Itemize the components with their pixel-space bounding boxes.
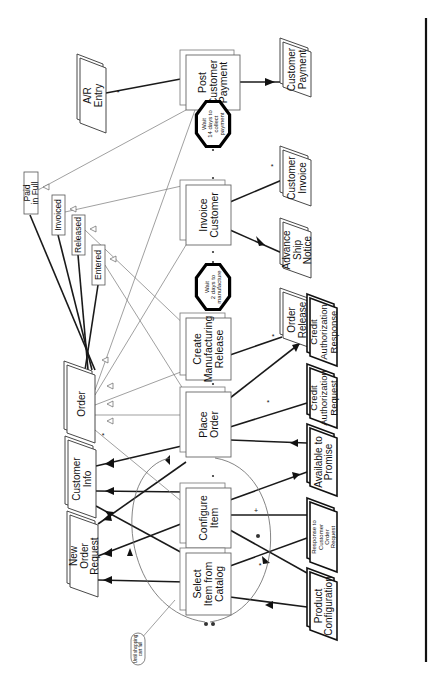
arrowhead-credit-auth-response (292, 343, 300, 352)
state-triangle-icon (107, 383, 113, 389)
document-customer-payment[interactable]: CustomerPayment (280, 38, 311, 97)
process-label-line: Customer (208, 192, 220, 238)
loop-start-dot (204, 622, 208, 626)
document-customer-info[interactable]: CustomerInfo (65, 436, 96, 518)
sequence-dot (212, 475, 214, 477)
order-state-label-line: Entered (93, 250, 103, 280)
wait-label-line: manufacture (216, 270, 222, 304)
state-triangle-icon (43, 184, 49, 190)
many-marker: * (272, 333, 275, 340)
document-customer-invoice[interactable]: CustomerInvoice (280, 146, 311, 206)
state-triangle-icon (70, 206, 76, 212)
arrowhead-available-to-promise (290, 439, 298, 447)
state-triangle-icon (90, 226, 96, 232)
order-state-label-line: in Full (30, 182, 40, 205)
order-state-label: Invoiced (53, 199, 63, 231)
document-credit-authorization-response[interactable]: CreditAuthorizationResponse (307, 294, 339, 366)
process-place-order[interactable]: PlaceOrder (180, 387, 231, 457)
arrowhead-advance-ship-notice (256, 236, 265, 246)
document-ar-entry[interactable]: A/REntry (77, 54, 106, 133)
arrowhead-loop (127, 548, 133, 556)
document-label-line: Invoice (297, 162, 308, 194)
document-label-line: Notice (302, 235, 313, 264)
process-invoice-customer[interactable]: InvoiceCustomer (180, 180, 231, 245)
order-state-paid-in-full[interactable]: Paidin Full (22, 172, 49, 214)
process-select-item-from-catalog[interactable]: SelectItem fromCatalog (180, 548, 231, 615)
document-label-line: Promise (323, 443, 334, 480)
state-triangle-icon (107, 418, 113, 424)
connector-customer-invoice (230, 180, 282, 202)
order-state-label-line: Invoiced (53, 199, 63, 231)
sequence-dot (212, 149, 214, 151)
document-credit-authorization-request[interactable]: CreditAuthorizationRequest (307, 364, 339, 428)
document-label-line: Request (330, 525, 336, 548)
arrowhead-loop-top (165, 455, 170, 465)
sequence-dot (212, 261, 214, 263)
wait-label-line: 2 days to (210, 274, 216, 299)
loop-dot (256, 534, 260, 538)
many-marker: * (259, 562, 262, 569)
document-label-line: Entry (93, 84, 104, 107)
arrowhead-neworder-3 (103, 576, 112, 584)
state-line-invoiced (65, 185, 186, 212)
wait-label-line: Wait (204, 281, 210, 293)
process-diagram: PostCustomerPaymentInvoiceCustomerCreate… (0, 0, 434, 675)
process-create-manufacturing-release[interactable]: CreateManufacturingRelease (180, 313, 231, 382)
many-marker: * (117, 89, 120, 96)
wait-wait-manufacture: Wait2 days tomanufacture (196, 265, 229, 310)
process-label-line: Order (208, 411, 220, 438)
state-line-entered (105, 265, 190, 400)
wait-label-line: Wait (201, 118, 207, 130)
order-state-entered[interactable]: Entered (92, 245, 116, 285)
process-label-line: Catalog (213, 566, 225, 602)
one-marker: + (254, 507, 258, 514)
connector-released (78, 255, 88, 370)
wait-wait-collect: Wait14 days tocollectpayment (196, 102, 229, 147)
sequence-dot (212, 177, 214, 179)
process-label-line: Payment (217, 62, 229, 104)
process-configure-item[interactable]: ConfigureItem (180, 483, 231, 548)
document-label: CustomerInvoice (286, 156, 307, 200)
document-label-line: Payment (297, 50, 308, 90)
order-state-label: Released (73, 217, 83, 253)
wait-label-line: payment (219, 112, 225, 135)
sequence-dot (212, 251, 214, 253)
document-label-line: Response (328, 311, 339, 354)
document-label-line: Response to (311, 520, 317, 554)
loop-callout: Until shoppingcart full (131, 633, 145, 665)
document-label-line: Request (89, 537, 100, 574)
wait-label-line: 14 days to (207, 109, 213, 137)
connector-entered (85, 285, 98, 370)
document-advance-ship-notice[interactable]: AdvanceShipNotice (280, 218, 313, 278)
process-label-line: Item (208, 508, 220, 529)
order-line-release (95, 370, 186, 405)
document-response-to-customer-order-request[interactable]: Response toCustomerOrderRequest (307, 498, 337, 572)
document-new-order-request[interactable]: NewOrderRequest (67, 511, 100, 597)
document-label-line: Release (297, 301, 308, 338)
arrowhead-custinfo-2 (105, 487, 114, 495)
process-label: InvoiceCustomer (197, 192, 220, 238)
document-label-line: Customer (318, 524, 324, 550)
loop-callout-leader (140, 600, 175, 640)
document-label-line: Request (328, 380, 339, 416)
document-label-line: Order (324, 529, 330, 544)
document-order[interactable]: Order (64, 361, 95, 443)
connector-advance-ship-notice (230, 230, 282, 253)
document-product-configuration[interactable]: ProductConfiguration (307, 568, 337, 640)
process-label: PlaceOrder (197, 411, 220, 438)
document-label: CustomerPayment (286, 47, 307, 91)
many-marker: * (271, 163, 274, 170)
order-state-label-line: Released (73, 217, 83, 253)
document-available-to-promise[interactable]: Available toPromise (307, 424, 337, 496)
document-label: A/REntry (82, 84, 103, 107)
arrowhead-neworder-2 (103, 548, 112, 557)
state-triangle-icon (107, 401, 113, 407)
process-label-line: Release (213, 330, 225, 369)
order-state-label: Paidin Full (22, 182, 41, 205)
many-marker: * (102, 432, 105, 439)
arrowhead-atp-configure (292, 472, 300, 480)
order-state-label: Entered (93, 250, 103, 280)
document-label-line: Info (82, 470, 93, 487)
document-label-line: Configuration (323, 576, 334, 635)
document-label: Order (76, 391, 87, 417)
